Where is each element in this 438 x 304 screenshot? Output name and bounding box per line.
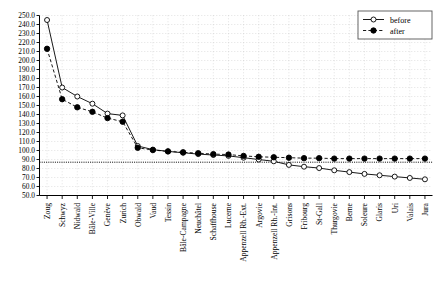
data-point-after [75, 105, 80, 110]
x-tick-label: Zoug [43, 203, 52, 219]
data-point-after [271, 155, 276, 160]
legend-label-after: after [390, 27, 405, 36]
x-tick-label: Valais [406, 203, 415, 222]
x-tick-label: Grisons [285, 203, 294, 227]
data-point-before [332, 168, 337, 173]
x-tick-label: Lucerne [224, 202, 233, 228]
data-point-before [347, 170, 352, 175]
y-tick-label: 60.0 [22, 182, 35, 191]
data-point-after [241, 153, 246, 158]
data-point-after [135, 145, 140, 150]
data-point-before [60, 85, 65, 90]
data-point-after [180, 150, 185, 155]
x-tick-label: Bâle-Campagne [179, 202, 188, 252]
y-tick-label: 230.0 [18, 29, 35, 38]
y-tick-label: 70.0 [22, 173, 35, 182]
y-tick-label: 170.0 [18, 83, 35, 92]
y-tick-label: 80.0 [22, 164, 35, 173]
data-point-after [347, 156, 352, 161]
axes [37, 16, 433, 200]
data-point-before [45, 18, 50, 23]
x-tick-label: Jura [421, 202, 430, 215]
x-tick-label: Uri [391, 203, 400, 213]
y-tick-label: 210.0 [18, 47, 35, 56]
y-tick-label: 250.0 [18, 11, 35, 20]
x-tick-label: Appenzell Rh.-Int. [270, 203, 279, 260]
data-point-after [211, 151, 216, 156]
y-tick-label: 160.0 [18, 92, 35, 101]
data-point-before [317, 166, 322, 171]
plot-area [40, 18, 433, 182]
x-tick-label: Berne [345, 202, 354, 221]
x-tick-label: Fribourg [300, 203, 309, 230]
series-line-after [47, 49, 425, 159]
data-point-after [377, 156, 382, 161]
y-tick-label: 200.0 [18, 56, 35, 65]
series-line-before [47, 20, 425, 179]
data-point-after [120, 119, 125, 124]
line-chart: 250.0240.0230.0220.0210.0200.0190.0180.0… [0, 0, 438, 304]
data-point-after [256, 154, 261, 159]
legend-marker-before [371, 17, 376, 22]
chart-container: 250.0240.0230.0220.0210.0200.0190.0180.0… [0, 0, 438, 304]
data-point-after [226, 152, 231, 157]
data-point-after [362, 156, 367, 161]
x-tick-label: Obwald [134, 203, 143, 227]
data-point-after [59, 97, 64, 102]
data-point-before [392, 174, 397, 179]
data-point-after [150, 147, 155, 152]
data-point-after [44, 46, 49, 51]
x-tick-label: Genève [103, 202, 112, 226]
x-tick-label: Glaris [375, 203, 384, 222]
data-point-before [286, 162, 291, 167]
data-point-after [407, 156, 412, 161]
x-tick-label: Schwyz [58, 202, 67, 227]
legend-label-before: before [390, 16, 411, 25]
y-tick-label: 190.0 [18, 65, 35, 74]
x-tick-label: Vaud [149, 203, 158, 219]
data-point-after [286, 155, 291, 160]
data-point-before [90, 101, 95, 106]
data-point-before [120, 113, 125, 118]
legend: beforeafter [358, 11, 432, 39]
x-tick-label: Schaffhouse [209, 202, 218, 240]
data-point-after [422, 156, 427, 161]
x-tick-label: Zurich [119, 203, 128, 223]
y-tick-label: 220.0 [18, 38, 35, 47]
x-tick-label: Neuchâtel [194, 203, 203, 234]
x-tick-label: Bâle-Ville [88, 202, 97, 234]
data-point-after [90, 109, 95, 114]
data-point-after [196, 151, 201, 156]
y-tick-label: 240.0 [18, 20, 35, 29]
data-point-after [332, 156, 337, 161]
data-point-before [377, 173, 382, 178]
y-tick-label: 100.0 [18, 146, 35, 155]
y-tick-label: 180.0 [18, 74, 35, 83]
data-point-after [316, 155, 321, 160]
legend-marker-after [371, 28, 376, 33]
data-point-after [105, 115, 110, 120]
data-point-before [75, 94, 80, 99]
y-tick-labels: 250.0240.0230.0220.0210.0200.0190.0180.0… [18, 11, 35, 200]
data-point-before [407, 175, 412, 180]
y-tick-label: 120.0 [18, 128, 35, 137]
series-after [44, 46, 427, 161]
x-tick-label: Appenzell Rh.-Ext. [239, 203, 248, 262]
x-tick-label: Thurgovie [330, 202, 339, 234]
data-point-before [302, 164, 307, 169]
data-point-after [301, 155, 306, 160]
series-before [45, 18, 428, 182]
y-tick-label: 140.0 [18, 110, 35, 119]
x-tick-label: Argovie [255, 202, 264, 227]
y-tick-label: 90.0 [22, 155, 35, 164]
x-tick-labels: ZougSchwyzNidwaldBâle-VilleGenèveZurichO… [43, 202, 430, 261]
gridlines [40, 16, 433, 196]
x-tick-label: St-Gall [315, 203, 324, 225]
data-point-after [392, 156, 397, 161]
y-tick-label: 130.0 [18, 119, 35, 128]
y-tick-label: 150.0 [18, 101, 35, 110]
data-point-before [362, 171, 367, 176]
x-tick-label: Nidwald [73, 203, 82, 229]
y-tick-label: 110.0 [19, 137, 36, 146]
data-point-before [422, 177, 427, 182]
